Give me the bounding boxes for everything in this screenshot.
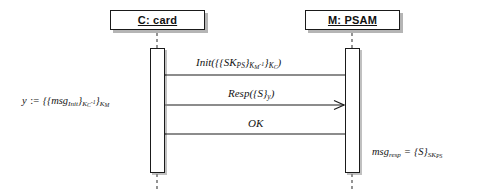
- message-label-ok: OK: [248, 118, 263, 129]
- activation-bar-psam: [345, 48, 360, 173]
- message-label-resp: Resp({S}y): [228, 88, 274, 101]
- sequence-diagram-canvas: C: card M: PSAM Init({{SKPS}KM-1}KC) Res…: [0, 0, 493, 195]
- lifeline-head-card-label: C: card: [138, 14, 177, 26]
- lifeline-head-psam-label: M: PSAM: [328, 14, 377, 26]
- activation-bar-card: [150, 48, 165, 173]
- message-label-init: Init({{SKPS}KM-1}KC): [196, 57, 281, 70]
- lifeline-head-psam: M: PSAM: [305, 10, 400, 30]
- lifeline-head-card: C: card: [110, 10, 205, 30]
- annotation-y-definition: y := {{msgInit}KC-1}KM: [22, 96, 109, 109]
- annotation-msg-resp-definition: msgresp = {S}SKPS: [372, 147, 442, 160]
